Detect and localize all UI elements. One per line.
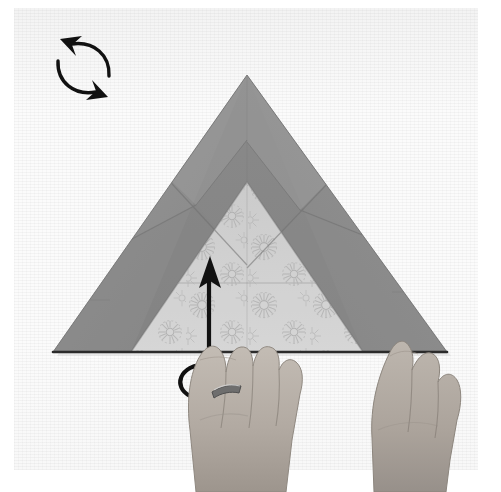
rotate-arrow-top (72, 44, 109, 76)
rotate-arrow-top-head (60, 36, 82, 56)
rotate-arrow-bottom (58, 61, 96, 93)
left-hand (188, 346, 302, 492)
rotate-arrow-bottom-head (86, 80, 108, 100)
right-hand (372, 341, 461, 492)
turn-over-rotate-symbol (38, 24, 134, 112)
origami-step-figure: Origami folding step photograph Large gr… (0, 0, 501, 492)
rotate-symbol-svg (38, 24, 134, 112)
